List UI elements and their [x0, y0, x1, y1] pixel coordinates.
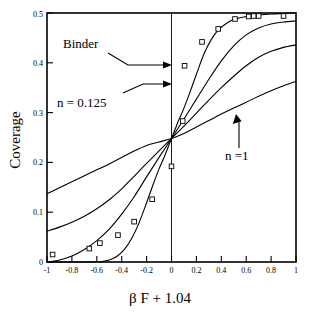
data-point-marker: [256, 14, 261, 19]
x-tick-label: -0.2: [140, 266, 153, 275]
x-tick-label: 0.2: [191, 266, 201, 275]
chart-figure: -1 -0.8 -0.6 -0.4 -0.2 0 0.2 0.4 0.6 0.8…: [0, 0, 309, 319]
x-tick-label: -0.8: [66, 266, 79, 275]
binder-leader-line: [108, 53, 166, 65]
data-point-marker: [50, 252, 55, 257]
data-point-marker: [200, 40, 205, 45]
data-point-marker: [116, 233, 121, 238]
n-small-leader-line: [123, 84, 166, 93]
y-tick-label: 0.2: [33, 158, 43, 167]
data-point-marker: [233, 17, 238, 22]
data-point-marker: [87, 246, 92, 251]
data-point-marker: [132, 219, 137, 224]
y-tick-label: 0.3: [33, 109, 43, 118]
data-point-marker: [150, 197, 155, 202]
x-tick-label: 0.8: [266, 266, 276, 275]
x-tick-label: 1: [294, 266, 298, 275]
y-tick-label: 0.5: [33, 10, 43, 19]
data-point-marker: [246, 14, 251, 19]
x-tick-labels: -1 -0.8 -0.6 -0.4 -0.2 0 0.2 0.4 0.6 0.8…: [44, 266, 298, 275]
data-point-marker: [281, 14, 286, 19]
annotation-n-0125: n = 0.125: [57, 81, 172, 110]
n-one-arrowhead: [233, 114, 242, 124]
y-axis-ticks: [47, 13, 53, 262]
n-small-label: n = 0.125: [57, 95, 107, 110]
binder-label: Binder: [63, 36, 99, 51]
binder-arrowhead: [163, 62, 172, 69]
data-point-marker: [216, 27, 221, 32]
x-tick-label: -0.4: [115, 266, 128, 275]
x-tick-label: 0: [170, 266, 174, 275]
x-axis-title: β F + 1.04: [129, 290, 191, 306]
data-point-marker: [169, 164, 174, 169]
y-tick-label: 0.1: [33, 208, 43, 217]
x-tick-label: -0.6: [90, 266, 103, 275]
plot-svg: -1 -0.8 -0.6 -0.4 -0.2 0 0.2 0.4 0.6 0.8…: [0, 0, 309, 319]
data-point-marker: [182, 63, 187, 68]
data-point-marker: [98, 241, 103, 246]
n-small-arrowhead: [163, 81, 172, 88]
x-tick-label: 0.6: [241, 266, 251, 275]
annotation-n-1: n =1: [225, 114, 249, 163]
y-axis-title: Coverage: [7, 111, 23, 169]
y-tick-label: 0: [39, 258, 43, 267]
data-point-marker: [251, 14, 256, 19]
y-tick-label: 0.4: [33, 59, 43, 68]
x-tick-label: 0.4: [216, 266, 226, 275]
data-point-marker: [180, 119, 185, 124]
y-tick-labels: 0 0.1 0.2 0.3 0.4 0.5: [33, 10, 43, 267]
n-one-label: n =1: [225, 148, 249, 163]
x-tick-label: -1: [44, 266, 51, 275]
x-axis-ticks: [47, 256, 296, 262]
annotation-binder: Binder: [63, 36, 172, 68]
